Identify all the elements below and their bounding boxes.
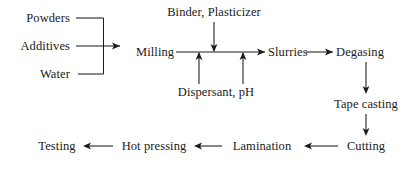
- node-lamination: Lamination: [233, 140, 292, 153]
- connector-degasing-to-tape-casting: [363, 62, 370, 94]
- connector-milling-to-slurries: [176, 49, 265, 56]
- node-additives: Additives: [20, 40, 70, 53]
- connector-hot-pressing-to-testing: [83, 143, 113, 150]
- node-testing: Testing: [38, 140, 75, 153]
- node-binder-plasticizer: Binder, Plasticizer: [167, 6, 261, 19]
- connector-cutting-to-lamination: [304, 143, 338, 150]
- connector-slurries-to-degasing: [306, 49, 333, 56]
- connector-input-bracket: [76, 18, 120, 74]
- node-water: Water: [40, 68, 70, 81]
- process-flow-diagram: Powders Additives Water Milling Binder, …: [0, 0, 412, 169]
- connector-binder-down: [211, 22, 218, 52]
- connector-lamination-to-hot-pressing: [194, 143, 222, 150]
- node-milling: Milling: [136, 46, 174, 59]
- node-tape-casting: Tape casting: [334, 98, 398, 111]
- node-degasing: Degasing: [336, 46, 384, 59]
- node-hot-pressing: Hot pressing: [122, 140, 187, 153]
- connector-dispersant-up-right: [240, 52, 247, 84]
- node-dispersant-ph: Dispersant, pH: [178, 86, 254, 99]
- node-slurries: Slurries: [268, 46, 308, 59]
- connector-dispersant-up-left: [196, 52, 203, 84]
- node-cutting: Cutting: [347, 140, 385, 153]
- node-powders: Powders: [26, 12, 70, 25]
- connector-tape-casting-to-cutting: [363, 114, 370, 136]
